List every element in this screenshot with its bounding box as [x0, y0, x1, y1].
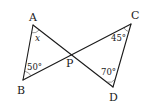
- geometry-diagram: A B C D P x 50° 45° 70°: [0, 0, 145, 105]
- point-label-d: D: [109, 91, 118, 104]
- angle-label-d: 70°: [101, 67, 116, 77]
- point-label-p: P: [66, 57, 74, 70]
- point-label-a: A: [28, 11, 38, 24]
- point-label-c: C: [131, 9, 139, 22]
- angle-arc-c: [124, 28, 129, 32]
- angle-label-b: 50°: [27, 62, 42, 72]
- angle-label-a: x: [35, 33, 40, 43]
- segment-ad: [33, 25, 113, 87]
- point-label-b: B: [17, 84, 25, 97]
- angle-label-c: 45°: [111, 33, 126, 43]
